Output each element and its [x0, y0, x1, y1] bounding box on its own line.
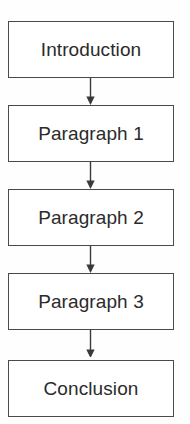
flowchart-node-label: Conclusion [44, 379, 139, 398]
flowchart-node-label: Paragraph 1 [38, 124, 144, 143]
flowchart-node-conclusion[interactable]: Conclusion [8, 360, 174, 417]
flowchart-connector-introduction-to-paragraph-1 [0, 78, 190, 105]
flowchart-node-paragraph-3[interactable]: Paragraph 3 [8, 273, 174, 330]
flowchart-node-introduction[interactable]: Introduction [8, 21, 174, 78]
flowchart-connector-paragraph-1-to-paragraph-2 [0, 162, 190, 189]
flowchart-node-label: Paragraph 3 [38, 292, 144, 311]
flowchart-node-paragraph-1[interactable]: Paragraph 1 [8, 105, 174, 162]
flowchart-connector-paragraph-2-to-paragraph-3 [0, 246, 190, 273]
flowchart-connector-paragraph-3-to-conclusion [0, 330, 190, 357]
flowchart-node-label: Paragraph 2 [38, 208, 144, 227]
flowchart-node-label: Introduction [41, 40, 142, 59]
flowchart-node-paragraph-2[interactable]: Paragraph 2 [8, 189, 174, 246]
flowchart-diagram: Introduction Paragraph 1 Paragraph 2 Par… [0, 0, 190, 424]
